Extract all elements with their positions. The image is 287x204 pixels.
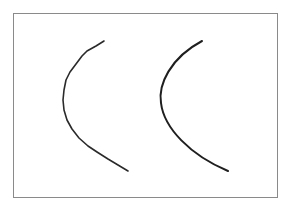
right-curve [161, 41, 228, 171]
left-curve [63, 41, 128, 171]
figure-canvas [0, 0, 287, 204]
